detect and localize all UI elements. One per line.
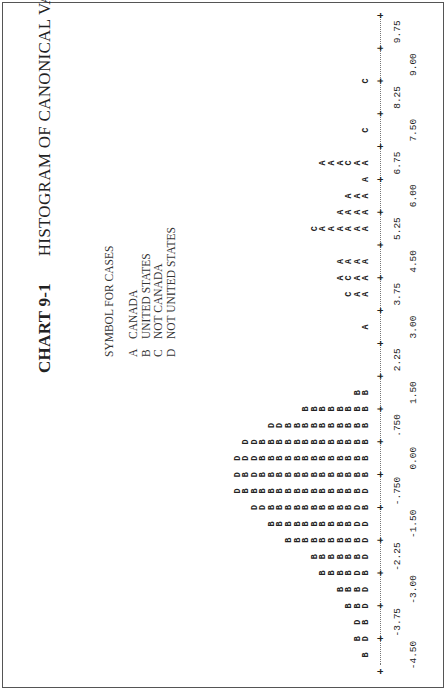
- histogram-column: B: [362, 651, 371, 659]
- axis-tick-mark: +: [376, 45, 387, 51]
- chart-title-text: HISTOGRAM OF CANONICAL VARIABLE: [35, 0, 54, 256]
- histogram-column: BBBBBBBBBBBBBDD: [242, 438, 371, 446]
- axis-tick-label-lower: -4.50: [408, 641, 419, 670]
- case-symbol: B: [362, 471, 371, 479]
- axis-tick-mark: +: [376, 570, 387, 576]
- case-symbol: B: [362, 651, 371, 659]
- axis-tick-mark: +: [376, 439, 387, 445]
- case-symbol: A: [362, 159, 371, 167]
- histogram-column: C: [362, 77, 371, 85]
- case-symbol: A: [362, 290, 371, 298]
- case-symbol: A: [362, 274, 371, 282]
- axis-tick-label-upper: 3.75: [392, 283, 403, 306]
- case-symbol: D: [362, 635, 371, 643]
- histogram-column: DBBBBBBBBBBBBBBD: [234, 487, 372, 495]
- axis-tick-mark: +: [376, 275, 387, 281]
- axis-tick-mark: +: [376, 209, 387, 215]
- axis-tick-label-upper: -3.75: [392, 608, 403, 637]
- case-symbol: C: [362, 77, 371, 85]
- case-symbol: B: [362, 503, 371, 511]
- case-symbol: A: [362, 225, 371, 233]
- axis-tick-mark: +: [376, 308, 387, 314]
- axis-tick-mark: +: [376, 111, 387, 117]
- axis-tick-mark: +: [376, 472, 387, 478]
- axis-tick-mark: +: [376, 78, 387, 84]
- histogram-column: A: [362, 175, 371, 183]
- legend-item: BUNITED STATES: [140, 227, 153, 357]
- histogram-column: AAAA: [337, 208, 371, 216]
- histogram-column: AACA: [337, 274, 371, 282]
- case-symbol: D: [362, 585, 371, 593]
- case-symbol: B: [362, 389, 371, 397]
- axis-tick-mark: +: [376, 636, 387, 642]
- histogram-column: BBBBBBBBBBDD: [268, 421, 371, 429]
- rotated-page: CHART 9-1 HISTOGRAM OF CANONICAL VARIABL…: [3, 3, 443, 687]
- axis-tick-label-upper: 8.25: [392, 86, 403, 109]
- chart-title: CHART 9-1 HISTOGRAM OF CANONICAL VARIABL…: [35, 0, 55, 373]
- axis-tick-mark: +: [376, 176, 387, 182]
- axis-tick-mark: +: [376, 242, 387, 248]
- axis-tick-label-lower: 7.50: [408, 119, 419, 142]
- axis-tick-label-upper: -.750: [392, 477, 403, 506]
- histogram-column: BD: [354, 618, 371, 626]
- axis-tick-mark: +: [376, 144, 387, 150]
- axis-tick-mark: +: [376, 12, 387, 18]
- case-symbol: A: [362, 257, 371, 265]
- axis-tick-mark: +: [376, 340, 387, 346]
- histogram-plot: BDBBDDBBDBBBBDBBBBDBBBBBBDBBBBBBBBBDDBBB…: [153, 7, 433, 677]
- histogram-column: DBBBBBBBBB: [285, 536, 371, 544]
- axis-tick-label-lower: 0.00: [408, 447, 419, 470]
- histogram-column: DDBBBBBBBBBB: [268, 520, 371, 528]
- axis-tick-label-upper: 6.75: [392, 152, 403, 175]
- histogram-column: DBBBBBB: [311, 553, 371, 561]
- histogram-column: AACAAA: [319, 159, 371, 167]
- axis-tick-label-lower: 4.50: [408, 250, 419, 273]
- axis-tick-label-upper: 5.25: [392, 217, 403, 240]
- case-symbol: C: [362, 126, 371, 134]
- figure-frame: CHART 9-1 HISTOGRAM OF CANONICAL VARIABL…: [2, 2, 444, 688]
- case-symbol: D: [362, 602, 371, 610]
- axis-tick-mark: +: [376, 537, 387, 543]
- histogram-column: AAA: [345, 192, 371, 200]
- case-symbol: B: [362, 569, 371, 577]
- axis-tick-mark: +: [376, 603, 387, 609]
- axis-tick-label-upper: 9.75: [392, 20, 403, 43]
- axis-tick-label-lower: 3.00: [408, 316, 419, 339]
- case-symbol: A: [362, 323, 371, 331]
- axis-tick-mark: +: [376, 504, 387, 510]
- case-symbol: B: [362, 618, 371, 626]
- histogram-column: BBBBBBBB: [302, 405, 371, 413]
- axis-tick-label-lower: -3.00: [408, 575, 419, 604]
- axis-tick-mark: +: [376, 668, 387, 674]
- case-symbol: B: [362, 438, 371, 446]
- histogram-column: DB: [354, 635, 371, 643]
- histogram-column: DBB: [345, 602, 371, 610]
- axis-tick-label-lower: 6.00: [408, 184, 419, 207]
- histogram-column: BBBBBBBBBBBBBDDD: [234, 454, 372, 462]
- histogram-column: DBBB: [337, 585, 371, 593]
- histogram-column: BDBBBB: [319, 569, 371, 577]
- legend-heading: SYMBOL FOR CASES: [103, 227, 115, 357]
- axis-tick-label-lower: 9.00: [408, 53, 419, 76]
- axis-tick-mark: +: [376, 406, 387, 412]
- chart-number: CHART 9-1: [35, 283, 54, 373]
- histogram-column: BBBBBBBBBBBBBDBD: [234, 471, 372, 479]
- case-symbol: A: [362, 208, 371, 216]
- legend-item: ACANADA: [127, 227, 140, 357]
- histogram-column: A: [362, 323, 371, 331]
- histogram-column: BDBBBBBBBBBBDD: [251, 503, 371, 511]
- histogram-column: AAC: [345, 290, 371, 298]
- axis-tick-label-upper: 2.25: [392, 348, 403, 371]
- case-symbol: A: [362, 192, 371, 200]
- case-symbol: D: [362, 553, 371, 561]
- axis-tick-label-upper: .750: [392, 414, 403, 437]
- histogram-column: AAAAAAC: [311, 225, 371, 233]
- case-symbol: D: [362, 520, 371, 528]
- case-symbol: D: [362, 536, 371, 544]
- histogram-column: AAAA: [337, 257, 371, 265]
- case-symbol: B: [362, 421, 371, 429]
- axis-tick-mark: +: [376, 373, 387, 379]
- histogram-column: BB: [354, 389, 371, 397]
- axis-tick-label-lower: -1.50: [408, 510, 419, 539]
- case-symbol: B: [362, 454, 371, 462]
